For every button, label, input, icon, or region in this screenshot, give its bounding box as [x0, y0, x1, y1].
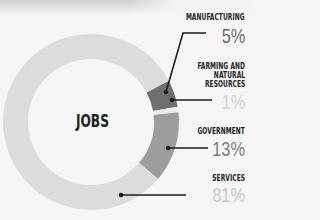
label-farming-line2: NATURAL	[214, 71, 245, 80]
label-farming-line3: RESOURCES	[204, 80, 245, 89]
label-farming-line1: FARMING AND	[197, 62, 245, 71]
leader-dot-government	[166, 146, 171, 151]
leader-dot-farming	[170, 98, 175, 103]
label-government: GOVERNMENT	[198, 127, 245, 136]
pct-manufacturing: 5%	[221, 25, 245, 46]
chart-center-title: JOBS	[76, 111, 106, 131]
pct-farming: 1%	[221, 91, 245, 112]
leader-dot-manufacturing	[164, 90, 169, 95]
label-services: SERVICES	[212, 174, 245, 183]
leader-dot-services	[119, 193, 124, 198]
pct-government: 13%	[212, 138, 245, 159]
label-manufacturing: MANUFACTURING	[186, 13, 245, 22]
pct-services: 81%	[212, 184, 245, 205]
